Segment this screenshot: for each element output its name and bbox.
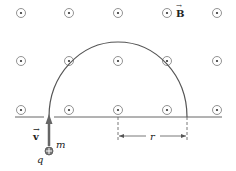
mass-label: m	[56, 139, 65, 150]
magnetic-field-grid	[17, 9, 222, 115]
velocity-arrow	[46, 114, 53, 146]
field-out-of-page-icon	[65, 106, 74, 115]
field-out-of-page-icon	[17, 106, 26, 115]
field-out-of-page-icon	[213, 9, 222, 18]
charge-label: q	[37, 154, 43, 165]
charged-particle	[45, 147, 53, 155]
field-out-of-page-icon	[163, 9, 172, 18]
field-out-of-page-icon	[65, 9, 74, 18]
field-out-of-page-icon	[17, 9, 26, 18]
field-vector-arrow-icon: →	[176, 2, 182, 10]
field-out-of-page-icon	[114, 57, 123, 66]
field-out-of-page-icon	[114, 9, 123, 18]
field-out-of-page-icon	[213, 57, 222, 66]
field-out-of-page-icon	[213, 106, 222, 115]
field-out-of-page-icon	[163, 106, 172, 115]
diagram-canvas: v → m q r B →	[0, 0, 236, 171]
field-out-of-page-icon	[17, 57, 26, 66]
field-out-of-page-icon	[114, 106, 123, 115]
velocity-vector-arrow-icon: →	[33, 125, 40, 134]
radius-label: r	[150, 131, 156, 142]
